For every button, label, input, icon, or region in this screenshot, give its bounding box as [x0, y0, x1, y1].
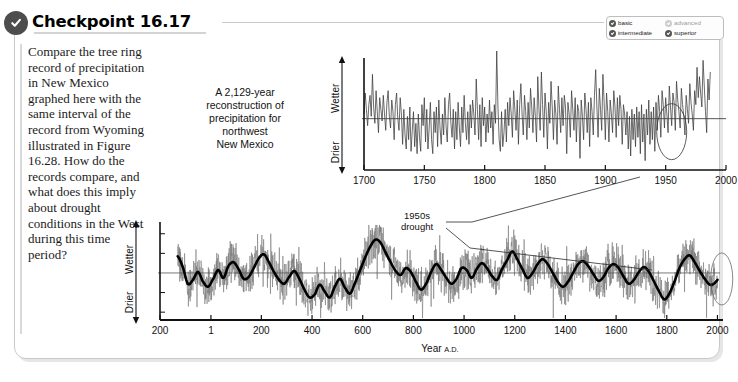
- check-dot-icon: [609, 20, 616, 27]
- figure-caption: A 2,129-year reconstruction of precipita…: [170, 86, 320, 151]
- badge-label: basic: [618, 20, 632, 26]
- caption-line-1: A 2,129-year: [170, 86, 320, 99]
- svg-text:Wetter: Wetter: [330, 83, 341, 113]
- badge-superior[interactable]: superior: [665, 28, 721, 38]
- svg-text:Drier: Drier: [330, 141, 341, 163]
- svg-text:2000: 2000: [706, 325, 729, 336]
- svg-text:1600: 1600: [605, 325, 628, 336]
- svg-text:Drier: Drier: [124, 291, 135, 313]
- main-chart: 2001200400600800100012001400160018002000…: [120, 216, 730, 366]
- inset-chart: 1700175018001850190019502000WetterDrier: [326, 52, 730, 202]
- badge-label: intermediate: [618, 30, 652, 36]
- badge-label: superior: [674, 30, 696, 36]
- svg-text:1900: 1900: [594, 175, 617, 186]
- svg-text:1950: 1950: [655, 175, 678, 186]
- svg-text:1700: 1700: [353, 175, 376, 186]
- svg-text:2000: 2000: [715, 175, 738, 186]
- svg-text:Year A.D.: Year A.D.: [421, 343, 458, 354]
- check-circle-icon: [4, 11, 28, 35]
- question-divider: [20, 44, 22, 334]
- badge-label: advanced: [674, 20, 701, 26]
- page-title: Checkpoint 16.17: [32, 12, 191, 31]
- badge-advanced[interactable]: advanced: [665, 18, 721, 28]
- svg-text:400: 400: [304, 325, 321, 336]
- svg-text:1: 1: [208, 325, 214, 336]
- svg-text:1000: 1000: [453, 325, 476, 336]
- badge-basic[interactable]: basic: [609, 18, 665, 28]
- svg-text:1200: 1200: [504, 325, 527, 336]
- check-dot-icon: [609, 30, 616, 37]
- svg-text:1800: 1800: [656, 325, 679, 336]
- svg-text:1800: 1800: [474, 175, 497, 186]
- badge-intermediate[interactable]: intermediate: [609, 28, 665, 38]
- svg-text:200: 200: [152, 325, 169, 336]
- svg-text:1400: 1400: [554, 325, 577, 336]
- caption-line-4: northwest: [170, 125, 320, 138]
- svg-text:200: 200: [253, 325, 270, 336]
- svg-text:1750: 1750: [413, 175, 436, 186]
- check-dot-icon: [665, 20, 672, 27]
- svg-text:600: 600: [354, 325, 371, 336]
- difficulty-legend: basic advanced intermediate superior: [606, 16, 724, 40]
- svg-text:800: 800: [405, 325, 422, 336]
- caption-line-5: New Mexico: [170, 138, 320, 151]
- check-dot-icon: [665, 30, 672, 37]
- caption-line-3: precipitation for: [170, 112, 320, 125]
- title-rule: [34, 32, 206, 34]
- caption-line-2: reconstruction of: [170, 99, 320, 112]
- svg-text:Wetter: Wetter: [124, 244, 135, 274]
- svg-text:1850: 1850: [534, 175, 557, 186]
